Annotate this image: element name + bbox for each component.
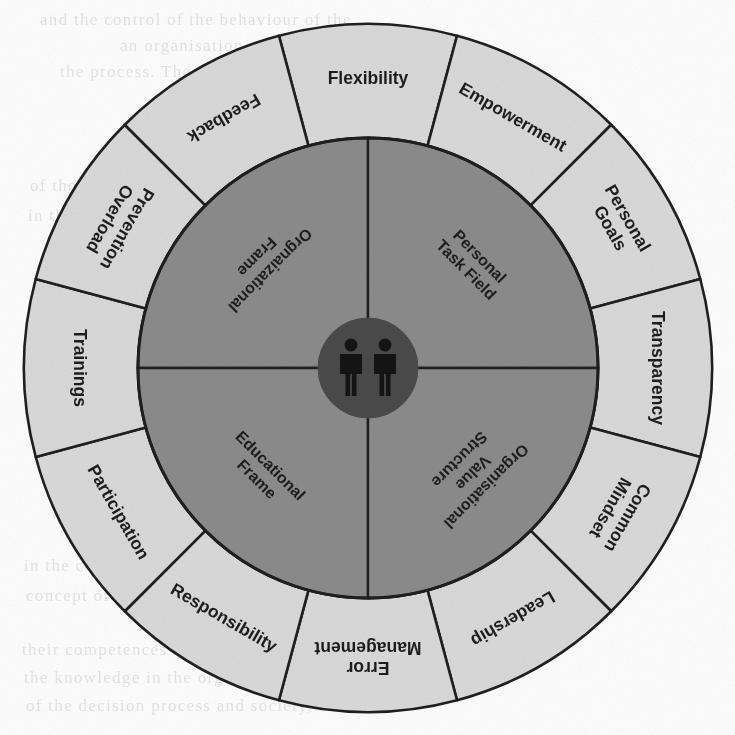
sector-label: Flexibility <box>328 68 409 88</box>
wheel-diagram: FlexibilityEmpowermentPersonalGoalsTrans… <box>0 0 735 735</box>
core-circle <box>318 318 418 418</box>
sector-label: Transparency <box>648 311 668 425</box>
sector-label: Trainings <box>70 329 90 407</box>
figure-canvas: and the control of the behaviour of thea… <box>0 0 735 735</box>
